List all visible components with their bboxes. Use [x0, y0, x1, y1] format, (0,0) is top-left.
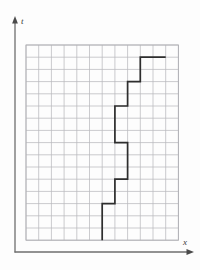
- arrow-right-icon: [187, 249, 195, 255]
- worldline-step-curve: [102, 57, 166, 240]
- graph-figure: t x: [0, 0, 200, 270]
- t-axis-label: t: [21, 16, 24, 26]
- x-axis-label: x: [182, 237, 187, 247]
- figure-canvas: t x: [0, 0, 200, 270]
- arrow-up-icon: [12, 16, 18, 24]
